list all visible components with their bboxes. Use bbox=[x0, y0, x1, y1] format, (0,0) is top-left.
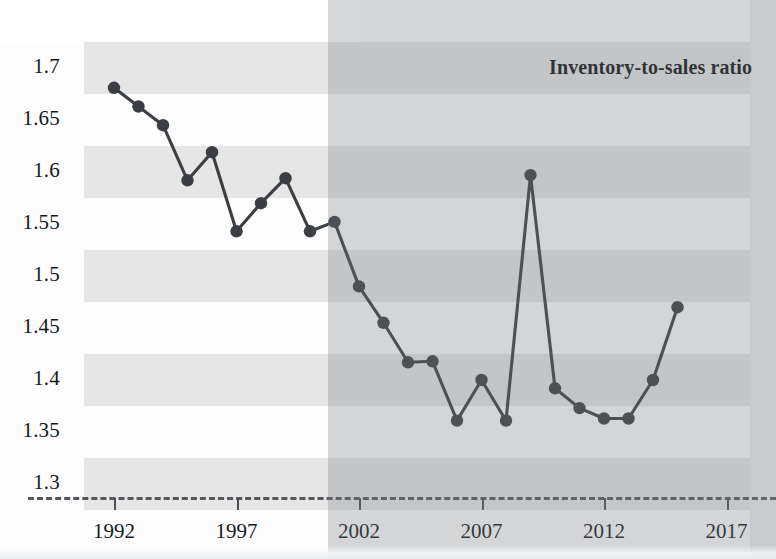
y-axis-tick-label: 1.6 bbox=[33, 158, 60, 183]
data-point-marker: 1992: 1.681 bbox=[108, 82, 120, 94]
x-axis-tick-label: 1997 bbox=[216, 519, 258, 544]
y-axis-tick-label: 1.45 bbox=[22, 314, 60, 339]
data-point-marker: 2008: 1.361 bbox=[500, 414, 512, 426]
data-point-marker: 1993: 1.663 bbox=[132, 100, 144, 112]
x-axis-tick-label: 2007 bbox=[461, 519, 503, 544]
x-axis-tick-label: 1992 bbox=[93, 519, 135, 544]
data-point-marker: 2011: 1.373 bbox=[573, 402, 585, 414]
x-axis-tick-label: 2012 bbox=[583, 519, 625, 544]
x-axis-tick-mark bbox=[114, 498, 116, 510]
y-axis-tick-label: 1.7 bbox=[33, 54, 60, 79]
data-point-marker: 2007: 1.4 bbox=[475, 374, 487, 386]
chart-canvas: 1992: 1.6811993: 1.6631994: 1.6451995: 1… bbox=[0, 0, 776, 559]
plot-area: 1992: 1.6811993: 1.6631994: 1.6451995: 1… bbox=[0, 0, 776, 559]
y-axis-tick-label: 1.65 bbox=[22, 106, 60, 131]
data-point-marker: 1996: 1.619 bbox=[206, 146, 218, 158]
data-point-marker: 1994: 1.645 bbox=[157, 119, 169, 131]
axis-baseline bbox=[28, 497, 776, 500]
x-axis-tick-mark bbox=[727, 498, 729, 510]
x-axis-tick-label: 2017 bbox=[706, 519, 748, 544]
data-point-marker: 2012: 1.363 bbox=[598, 412, 610, 424]
data-point-marker: 2014: 1.4 bbox=[647, 374, 659, 386]
data-point-marker: 2015: 1.47 bbox=[671, 301, 683, 313]
x-axis-tick-mark bbox=[482, 498, 484, 510]
x-axis-tick-label: 2002 bbox=[338, 519, 380, 544]
y-axis-tick-label: 1.5 bbox=[33, 262, 60, 287]
data-point-marker: 2013: 1.363 bbox=[622, 412, 634, 424]
data-point-marker: 1995: 1.592 bbox=[181, 174, 193, 186]
data-point-marker: 2001: 1.552 bbox=[328, 216, 340, 228]
series-line bbox=[114, 88, 678, 421]
data-point-marker: 2009: 1.597 bbox=[524, 169, 536, 181]
data-point-marker: 2010: 1.392 bbox=[549, 382, 561, 394]
x-axis-tick-mark bbox=[604, 498, 606, 510]
y-axis-tick-label: 1.35 bbox=[22, 418, 60, 443]
data-point-marker: 1998: 1.57 bbox=[255, 197, 267, 209]
data-point-marker: 2006: 1.361 bbox=[451, 414, 463, 426]
x-axis-tick-mark bbox=[359, 498, 361, 510]
data-point-marker: 2003: 1.455 bbox=[377, 317, 389, 329]
y-axis-tick-label: 1.4 bbox=[33, 366, 60, 391]
data-point-marker: 2005: 1.418 bbox=[426, 355, 438, 367]
y-axis-tick-label: 1.3 bbox=[33, 470, 60, 495]
data-point-marker: 2000: 1.543 bbox=[304, 225, 316, 237]
data-point-marker: 2002: 1.49 bbox=[353, 280, 365, 292]
data-point-marker: 1999: 1.594 bbox=[279, 172, 291, 184]
y-axis-tick-label: 1.55 bbox=[22, 210, 60, 235]
data-point-marker: 2004: 1.417 bbox=[402, 356, 414, 368]
line-series: 1992: 1.6811993: 1.6631994: 1.6451995: 1… bbox=[0, 0, 776, 559]
chart-title: Inventory-to-sales ratio bbox=[549, 56, 752, 79]
data-point-marker: 1997: 1.543 bbox=[230, 225, 242, 237]
x-axis-tick-mark bbox=[237, 498, 239, 510]
